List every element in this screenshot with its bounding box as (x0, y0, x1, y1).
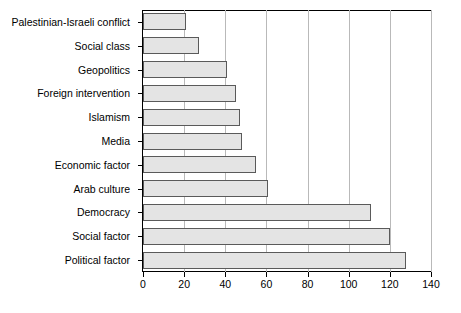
x-axis-tick (349, 272, 350, 277)
x-axis-tick-label: 0 (140, 278, 146, 290)
bar (143, 180, 268, 197)
bar (143, 133, 242, 150)
y-axis-tick (138, 22, 142, 23)
y-axis-tick (138, 46, 142, 47)
x-axis-tick-label: 80 (302, 278, 314, 290)
x-axis-tick (390, 272, 391, 277)
y-axis-tick (138, 117, 142, 118)
bar (143, 204, 371, 221)
bar (143, 109, 240, 126)
y-axis-tick-label: Geopolitics (78, 64, 130, 76)
bar-chart: Palestinian-Israeli conflictSocial class… (0, 0, 461, 313)
y-axis-tick-label: Palestinian-Israeli conflict (12, 16, 130, 28)
y-axis-tick (138, 212, 142, 213)
plot-area (142, 10, 432, 272)
y-axis-tick-label: Democracy (77, 206, 130, 218)
x-axis-tick (184, 272, 185, 277)
x-axis-tick (431, 272, 432, 277)
y-axis-tick (138, 70, 142, 71)
y-axis-tick-label: Media (101, 135, 130, 147)
x-axis-tick-label: 20 (178, 278, 190, 290)
x-axis-tick (266, 272, 267, 277)
y-axis-tick-label: Economic factor (55, 159, 130, 171)
bar (143, 252, 406, 269)
bar (143, 156, 256, 173)
bar (143, 13, 186, 30)
y-axis-tick-label: Arab culture (73, 183, 130, 195)
y-axis-tick (138, 141, 142, 142)
x-axis-tick-label: 120 (381, 278, 399, 290)
x-axis-tick (143, 272, 144, 277)
x-axis-tick-label: 40 (219, 278, 231, 290)
y-axis-tick (138, 189, 142, 190)
x-axis-tick-label: 140 (422, 278, 440, 290)
x-axis: 020406080100120140 (142, 272, 433, 278)
y-axis-tick-label: Social class (75, 40, 130, 52)
y-axis-tick (138, 93, 142, 94)
y-axis-tick-label: Social factor (72, 230, 130, 242)
bar (143, 61, 227, 78)
bar (143, 85, 236, 102)
bars-layer (143, 10, 432, 272)
x-axis-tick-label: 60 (261, 278, 273, 290)
y-axis-tick-label: Foreign intervention (37, 87, 130, 99)
y-axis-tick (138, 165, 142, 166)
y-axis-tick (138, 260, 142, 261)
x-axis-tick (308, 272, 309, 277)
y-axis-tick-label: Islamism (89, 111, 130, 123)
x-axis-tick-label: 100 (340, 278, 358, 290)
y-axis-category-labels: Palestinian-Israeli conflictSocial class… (0, 10, 136, 272)
y-axis-tick-label: Political factor (65, 254, 130, 266)
bar (143, 37, 199, 54)
bar (143, 228, 390, 245)
x-axis-tick (225, 272, 226, 277)
y-axis-tick (138, 236, 142, 237)
